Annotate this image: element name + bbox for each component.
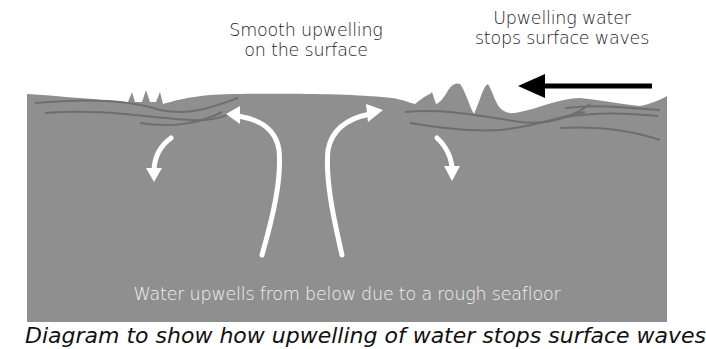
arrow-left-icon [518, 74, 652, 98]
smooth-upwelling-label: Smooth upwelling on the surface [196, 20, 416, 60]
stops-waves-line1: Upwelling water [442, 8, 682, 28]
figure-caption: Diagram to show how upwelling of water s… [25, 323, 706, 349]
smooth-upwelling-line2: on the surface [196, 40, 416, 60]
stops-waves-line2: stops surface waves [442, 28, 682, 48]
seafloor-label: Water upwells from below due to a rough … [27, 284, 667, 304]
stops-waves-label: Upwelling water stops surface waves [442, 8, 682, 48]
smooth-upwelling-line1: Smooth upwelling [196, 20, 416, 40]
